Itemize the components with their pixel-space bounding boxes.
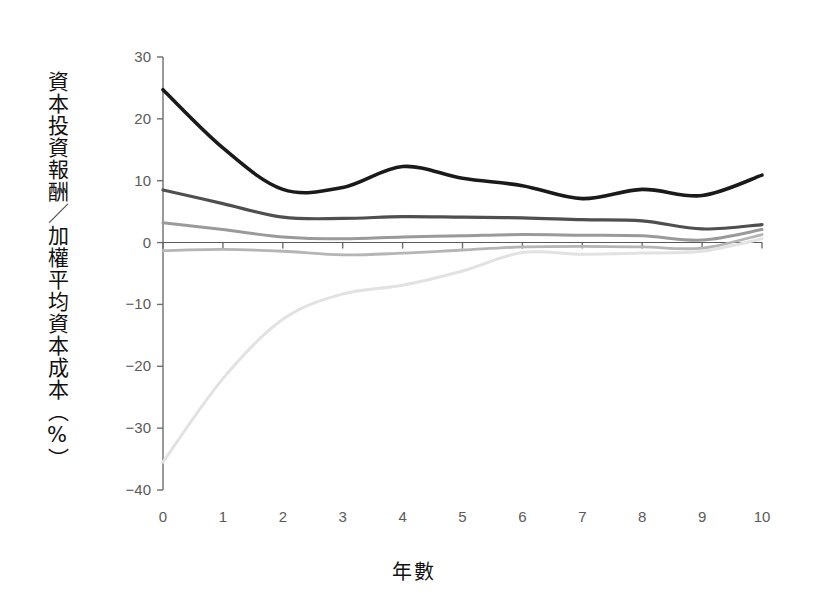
- y-tick-label: −40: [126, 481, 151, 498]
- y-tick-label: −20: [126, 357, 151, 374]
- chart-page: 資本投資報酬／加權平均資本成本（%） 3020100−10−20−30−40 0…: [0, 0, 828, 607]
- x-tick-label: 3: [339, 508, 347, 525]
- x-tick-label: 2: [279, 508, 287, 525]
- series-line-quintile-2: [163, 190, 762, 229]
- y-tick-label: −10: [126, 295, 151, 312]
- x-tick-label: 8: [638, 508, 646, 525]
- x-tick-label: 1: [219, 508, 227, 525]
- line-chart-figure: 3020100−10−20−30−40 012345678910: [0, 0, 828, 607]
- x-tick-group: 012345678910: [159, 243, 771, 525]
- x-tick-label: 4: [398, 508, 406, 525]
- series-line-quintile-5: [163, 239, 762, 462]
- x-tick-label: 10: [754, 508, 771, 525]
- x-tick-label: 7: [578, 508, 586, 525]
- x-tick-label: 0: [159, 508, 167, 525]
- x-tick-label: 9: [698, 508, 706, 525]
- y-tick-label: 20: [134, 110, 151, 127]
- y-tick-label: −30: [126, 419, 151, 436]
- x-tick-label: 5: [458, 508, 466, 525]
- y-tick-label: 10: [134, 172, 151, 189]
- x-axis-label: 年數: [0, 556, 828, 585]
- y-tick-group: 3020100−10−20−30−40: [126, 48, 163, 498]
- axis-spines: [163, 57, 762, 490]
- y-tick-label: 30: [134, 48, 151, 65]
- series-line-quintile-1: [163, 90, 762, 199]
- y-tick-label: 0: [143, 234, 151, 251]
- x-tick-label: 6: [518, 508, 526, 525]
- series-group: [163, 90, 762, 462]
